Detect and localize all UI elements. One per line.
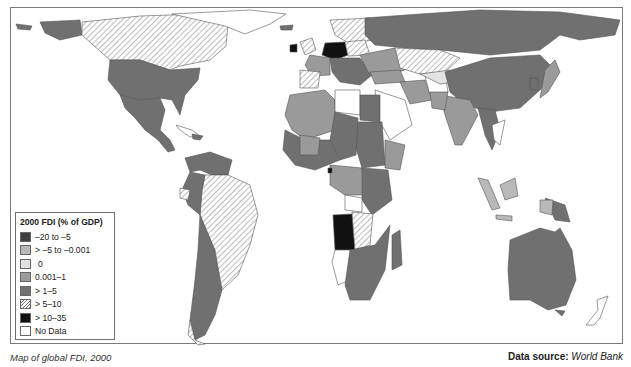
- sudan: [355, 122, 385, 168]
- legend-item: > 5–10: [20, 298, 110, 312]
- canada: [82, 14, 228, 70]
- new-zealand: [586, 296, 608, 325]
- swatch-icon: [20, 272, 31, 282]
- iberia: [300, 70, 320, 88]
- legend-label: 0: [38, 259, 43, 269]
- swatch-icon: [20, 245, 31, 255]
- mexico: [120, 95, 175, 152]
- east-africa: [362, 168, 392, 215]
- legend: 2000 FDI (% of GDP) –20 to –5 > –5 to –0…: [15, 212, 115, 340]
- colombia-venezuela: [185, 152, 232, 175]
- legend-label: > 5–10: [35, 299, 62, 309]
- legend-item: 0.001–1: [20, 271, 110, 285]
- zambia: [352, 212, 373, 250]
- legend-item: > –5 to –0.001: [20, 244, 110, 258]
- legend-item: > 1–5: [20, 284, 110, 298]
- ecuador: [180, 188, 190, 200]
- ireland: [290, 44, 297, 52]
- swatch-icon: [20, 326, 31, 336]
- legend-item: > 10–35: [20, 311, 110, 325]
- pakistan: [430, 92, 448, 110]
- egypt: [360, 95, 380, 122]
- libya: [335, 90, 360, 115]
- data-source: Data source: World Bank: [508, 351, 623, 362]
- source-value: World Bank: [571, 351, 623, 362]
- horn-africa: [385, 140, 405, 170]
- north-africa-west: [285, 90, 335, 140]
- legend-label: > 10–35: [35, 313, 66, 323]
- swatch-icon: [20, 232, 31, 242]
- swatch-icon: [20, 286, 31, 296]
- congo: [330, 165, 364, 195]
- legend-item: –20 to –5: [20, 230, 110, 244]
- borneo: [500, 178, 518, 200]
- angola: [333, 214, 355, 250]
- swatch-icon: [20, 259, 31, 269]
- drc-south: [345, 195, 362, 212]
- legend-item: 0: [20, 257, 110, 271]
- map-caption: Map of global FDI, 2000: [10, 352, 111, 363]
- swatch-icon: [20, 313, 31, 323]
- korea: [530, 78, 538, 90]
- uk: [300, 38, 316, 55]
- legend-label: –20 to –5: [35, 232, 71, 242]
- legend-label: > –5 to –0.001: [35, 245, 90, 255]
- australia: [508, 228, 576, 310]
- sumatra: [478, 178, 500, 210]
- legend-label: 0.001–1: [35, 272, 66, 282]
- madagascar: [392, 230, 402, 270]
- alaska: [40, 20, 82, 40]
- hatch-swatch-icon: [20, 299, 31, 309]
- legend-label: No Data: [35, 326, 67, 336]
- legend-label: > 1–5: [35, 286, 57, 296]
- source-label: Data source:: [508, 351, 569, 362]
- legend-item: No Data: [20, 325, 110, 339]
- legend-title: 2000 FDI (% of GDP): [20, 217, 110, 227]
